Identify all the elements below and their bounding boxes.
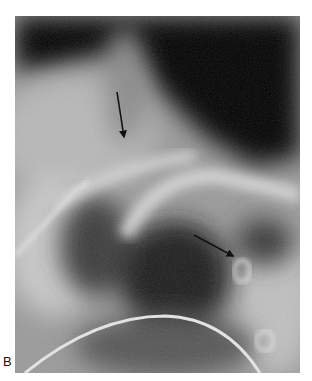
radiograph-image <box>15 16 300 373</box>
panel-label: B <box>3 354 12 369</box>
radiograph-svg <box>15 16 300 373</box>
